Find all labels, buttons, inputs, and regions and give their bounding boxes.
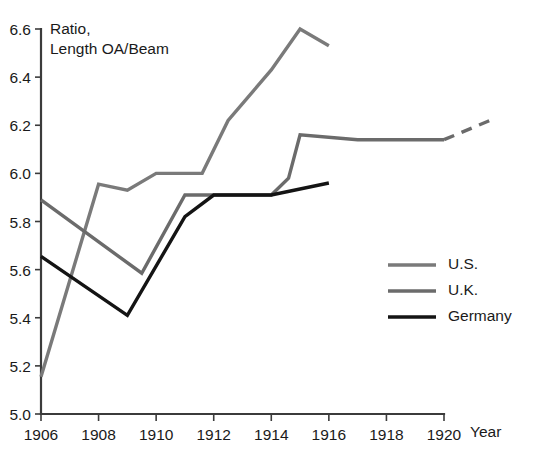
series-line <box>444 120 490 139</box>
chart-legend: U.S.U.K.Germany <box>388 255 512 324</box>
x-tick-label: 1918 <box>369 426 403 443</box>
x-tick-label: 1912 <box>196 426 230 443</box>
y-tick-label: 5.2 <box>9 358 31 375</box>
legend-label: U.K. <box>448 281 478 298</box>
y-tick-label: 6.6 <box>9 21 31 38</box>
series-line <box>41 29 329 377</box>
y-tick-label: 5.4 <box>9 310 31 327</box>
x-tick-label: 1914 <box>254 426 289 443</box>
x-tick-label: 1908 <box>81 426 115 443</box>
x-tick-label: 1906 <box>24 426 58 443</box>
y-tick-label: 5.0 <box>9 406 31 423</box>
y-tick-label: 6.0 <box>9 165 31 182</box>
legend-label: U.S. <box>448 255 478 272</box>
legend-label: Germany <box>448 307 512 324</box>
series-line <box>41 183 329 315</box>
y-tick-label: 6.4 <box>9 69 31 86</box>
y-axis-ticks: 5.05.25.45.65.86.06.26.46.6 <box>9 21 41 423</box>
y-tick-label: 5.8 <box>9 214 31 231</box>
chart-container: Ratio, Length OA/Beam 5.05.25.45.65.86.0… <box>0 0 542 458</box>
y-tick-label: 5.6 <box>9 262 31 279</box>
y-axis-title-line2: Length OA/Beam <box>50 40 169 57</box>
x-tick-label: 1920 <box>427 426 462 443</box>
y-tick-label: 6.2 <box>9 117 31 134</box>
x-tick-label: 1910 <box>139 426 174 443</box>
x-axis-ticks: 19061908191019121914191619181920 <box>24 414 462 443</box>
series-layer <box>41 29 490 377</box>
line-chart: Ratio, Length OA/Beam 5.05.25.45.65.86.0… <box>0 0 542 458</box>
x-tick-label: 1916 <box>312 426 346 443</box>
series-line <box>41 135 444 273</box>
y-axis-title-line1: Ratio, <box>50 20 91 37</box>
x-axis-title: Year <box>470 423 501 440</box>
